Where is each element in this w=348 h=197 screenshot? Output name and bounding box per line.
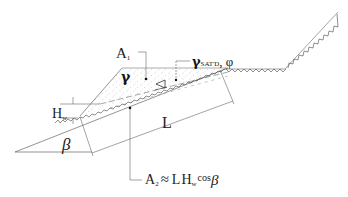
a1-label: A1	[116, 45, 131, 62]
sat-unit-weight-label: γSAT'D, φ	[192, 54, 233, 69]
a2-leader-dot	[129, 107, 132, 110]
length-extension-right	[220, 70, 234, 104]
slope-angle-label: β	[61, 135, 71, 154]
water-height-label: Hw	[52, 106, 68, 122]
length-extension-left	[80, 117, 93, 156]
a2-formula: A2≈LHwcosβ	[145, 171, 219, 188]
a2-leader-line	[130, 109, 142, 180]
ground-surface-flat	[224, 69, 286, 72]
sat-leader-dot	[175, 79, 177, 81]
length-label: L	[162, 114, 172, 131]
a1-leader-dot	[145, 78, 148, 81]
unit-weight-label: γ	[121, 69, 131, 85]
ground-surface-steep	[285, 12, 338, 69]
infinite-slope-diagram: A1 γ γSAT'D, φ Hw L β A2≈LHwcosβ	[0, 0, 348, 197]
